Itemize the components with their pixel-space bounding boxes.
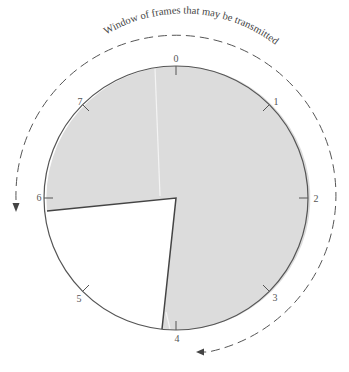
seq-label-6: 6 [37,192,42,203]
sliding-window-diagram: 0 1 2 3 4 5 6 7 Window of frames that ma… [0,0,349,372]
seq-label-5: 5 [77,293,82,304]
seq-label-4: 4 [175,333,180,344]
diagram-title: Window of frames that may be transmitted [102,4,282,47]
seq-label-2: 2 [314,193,319,204]
window-boundary [47,198,176,329]
arrowhead-icon [13,203,20,212]
arrowhead-icon [196,349,204,356]
seq-label-7: 7 [78,96,83,107]
seq-label-1: 1 [274,96,279,107]
seq-label-0: 0 [174,53,179,64]
seq-label-3: 3 [273,292,278,303]
